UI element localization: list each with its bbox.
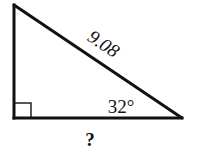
angle-label: 32° <box>108 96 135 117</box>
background <box>0 0 197 156</box>
unknown-base-label: ? <box>85 129 95 150</box>
triangle-diagram: 9.08 32° ? <box>0 0 197 156</box>
